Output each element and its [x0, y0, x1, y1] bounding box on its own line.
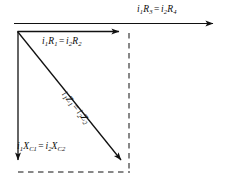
phasor-diagram-figure: i1R3=i2R4 i1R1=i2R2 i1Z1=i2Z2 i1XC1=i2XC…: [0, 0, 234, 186]
impedance-drop-arrow: [18, 32, 122, 161]
phasor-diagram-canvas: [0, 0, 234, 186]
